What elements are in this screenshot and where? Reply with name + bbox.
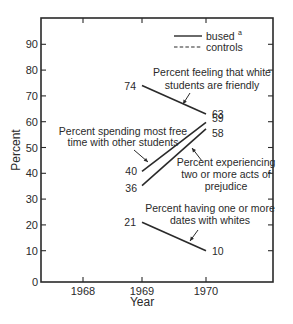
- y-tick-label: 40: [26, 167, 38, 179]
- series-start-value: 40: [125, 165, 137, 177]
- arrowhead-icon: [190, 237, 194, 241]
- y-axis-label: Percent: [9, 129, 23, 171]
- series-annotation: prejudice: [205, 180, 248, 192]
- plot-frame: [41, 18, 273, 282]
- series-annotation: Percent experiencing: [177, 156, 276, 168]
- legend-label-controls: controls: [206, 41, 243, 53]
- series-annotation: two or more acts of: [181, 168, 270, 180]
- line-chart: 0102030405060708090 196819691970 Percent…: [0, 0, 293, 324]
- legend: bused a controls: [174, 29, 243, 53]
- series-start-value: 21: [124, 216, 136, 228]
- series-annotation: dates with whites: [170, 214, 250, 226]
- y-tick-label: 60: [26, 116, 38, 128]
- y-tick-label: 20: [26, 219, 38, 231]
- y-tick-label: 0: [32, 276, 38, 288]
- series-1: 7463Percent feeling that whitestudents a…: [124, 66, 271, 120]
- y-tick-label: 30: [26, 193, 38, 205]
- legend-superscript: a: [238, 29, 242, 36]
- series-start-value: 36: [125, 182, 137, 194]
- series-start-value: 74: [124, 80, 136, 92]
- y-tick-label: 90: [26, 38, 38, 50]
- x-tick-label: 1970: [194, 285, 218, 297]
- series-annotation: time with other students: [68, 136, 179, 148]
- series-annotation: Percent having one or more: [145, 202, 275, 214]
- series-annotation: Percent feeling that white: [153, 66, 271, 78]
- series-end-value: 58: [212, 127, 224, 139]
- x-tick-label: 1968: [71, 285, 95, 297]
- y-tick-label: 10: [26, 245, 38, 257]
- series-layer: 7463Percent feeling that whitestudents a…: [59, 66, 276, 257]
- series-end-value: 59: [212, 112, 224, 124]
- y-tick-label: 50: [26, 142, 38, 154]
- series-end-value: 10: [212, 245, 224, 257]
- x-axis-label: Year: [130, 295, 154, 309]
- series-line: [142, 222, 206, 250]
- series-4: 2110Percent having one or moredates with…: [124, 202, 275, 257]
- y-tick-label: 80: [26, 64, 38, 76]
- y-tick-label: 70: [26, 90, 38, 102]
- series-annotation: students are friendly: [165, 79, 260, 91]
